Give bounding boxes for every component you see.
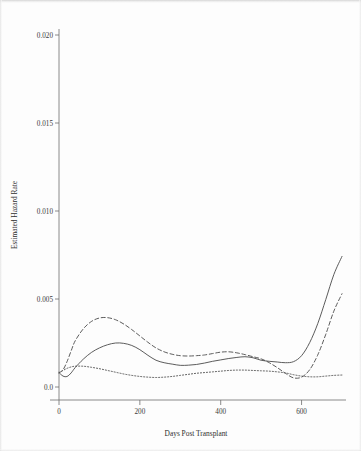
x-tick-label: 400 xyxy=(215,408,226,416)
figure-container: 0.00.0050.0100.0150.020 0200400600 Days … xyxy=(0,0,361,451)
y-tick-label: 0.005 xyxy=(37,296,54,304)
y-tick-label: 0.020 xyxy=(37,32,54,40)
y-tick-label: 0.0 xyxy=(44,384,53,392)
y-axis-title: Estimated Hazard Rate xyxy=(10,180,19,249)
y-axis-ticks: 0.00.0050.0100.0150.020 xyxy=(37,32,59,392)
x-tick-label: 0 xyxy=(57,408,61,416)
y-tick-label: 0.010 xyxy=(37,208,54,216)
curve-solid xyxy=(59,256,342,376)
curve-dotted xyxy=(59,366,342,377)
x-tick-label: 600 xyxy=(296,408,307,416)
x-tick-label: 200 xyxy=(134,408,145,416)
x-axis-ticks: 0200400600 xyxy=(57,400,307,416)
x-axis-title: Days Post Transplant xyxy=(165,429,229,438)
y-tick-label: 0.015 xyxy=(37,120,54,128)
curve-dashed xyxy=(59,294,342,379)
hazard-rate-line-chart: 0.00.0050.0100.0150.020 0200400600 Days … xyxy=(0,0,361,451)
chart-curves xyxy=(59,256,342,378)
